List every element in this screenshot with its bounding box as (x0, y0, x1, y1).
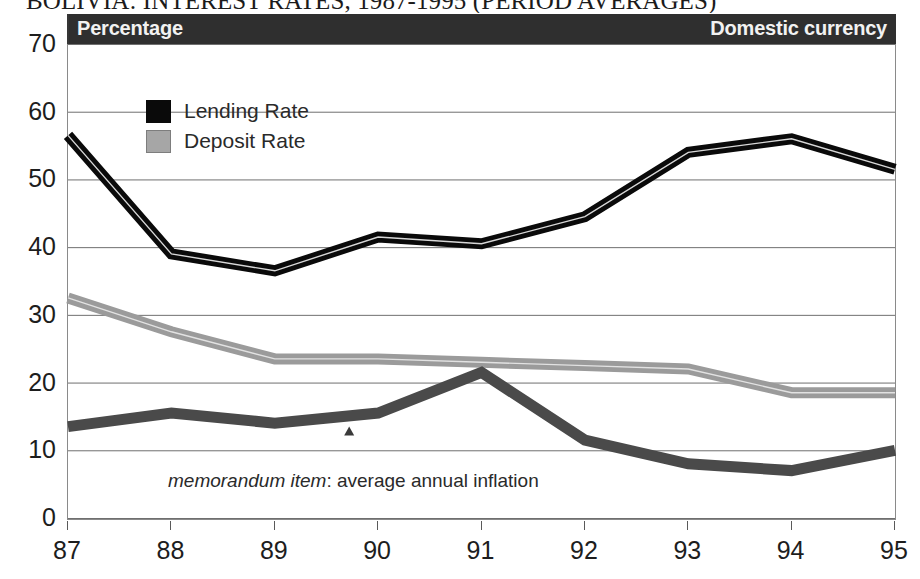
header-left-label: Percentage (77, 17, 183, 40)
x-axis-label: 87 (37, 538, 97, 563)
x-axis-tick (894, 521, 895, 530)
y-axis-label: 0 (0, 505, 56, 530)
chart-header-band: Percentage Domestic currency (67, 14, 896, 44)
legend-swatch-deposit-icon (146, 130, 171, 153)
memorandum-rest-label: : average annual inflation (326, 470, 538, 491)
y-axis-label: 10 (0, 437, 56, 462)
memorandum-note: memorandum item: average annual inflatio… (168, 470, 539, 492)
y-axis-label: 70 (0, 31, 56, 56)
memorandum-italic-label: memorandum item (168, 470, 326, 491)
legend: Lending Rate Deposit Rate (146, 96, 309, 156)
header-right-label: Domestic currency (710, 17, 887, 40)
x-axis-tick (67, 521, 68, 530)
y-axis-label: 60 (0, 99, 56, 124)
triangle-marker-icon (344, 426, 354, 435)
x-axis-label: 93 (657, 538, 717, 563)
y-axis-label: 50 (0, 166, 56, 191)
x-axis-label: 90 (347, 538, 407, 563)
y-axis-label: 20 (0, 370, 56, 395)
x-axis-tick (377, 521, 378, 530)
x-axis-tick (170, 521, 171, 530)
x-axis-label: 89 (244, 538, 304, 563)
y-axis-label: 30 (0, 302, 56, 327)
chart-figure: BOLIVIA: INTEREST RATES, 1987-1995 (PERI… (0, 0, 920, 579)
x-axis-label: 91 (451, 538, 511, 563)
x-axis-tick (481, 521, 482, 530)
legend-swatch-lending-icon (146, 100, 171, 123)
plot-area: Lending Rate Deposit Rate (67, 44, 896, 520)
x-axis-label: 88 (140, 538, 200, 563)
chart-title: BOLIVIA: INTEREST RATES, 1987-1995 (PERI… (26, 0, 906, 13)
x-axis-label: 94 (761, 538, 821, 563)
x-axis-tick (274, 521, 275, 530)
x-axis-tick (584, 521, 585, 530)
legend-item-lending: Lending Rate (146, 96, 309, 126)
x-axis-label: 92 (554, 538, 614, 563)
x-axis-tick (687, 521, 688, 530)
x-axis-label: 95 (864, 538, 920, 563)
y-axis-label: 40 (0, 234, 56, 259)
legend-label-lending: Lending Rate (184, 99, 309, 123)
legend-item-deposit: Deposit Rate (146, 126, 309, 156)
x-axis-tick (791, 521, 792, 530)
legend-label-deposit: Deposit Rate (184, 129, 305, 153)
